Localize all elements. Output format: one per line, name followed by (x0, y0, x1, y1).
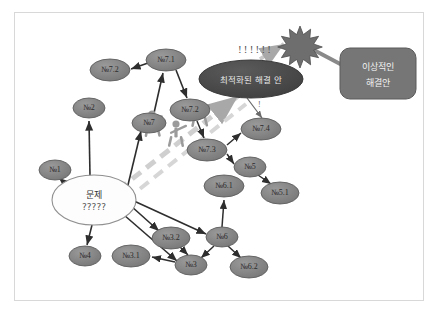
diagram-canvas: 최적화된 해결 안 !!!!!! ! 이상적인 해결안 (0, 0, 439, 317)
diagram-frame (14, 12, 424, 301)
